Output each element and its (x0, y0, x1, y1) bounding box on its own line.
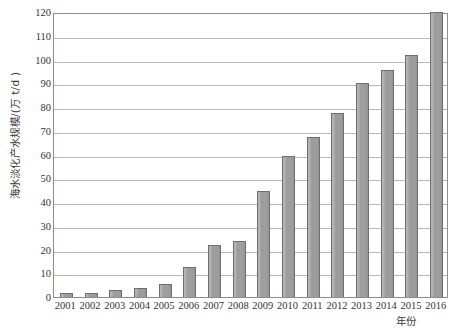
y-tick-label: 20 (22, 246, 51, 256)
bar (430, 12, 443, 297)
bar (60, 293, 73, 297)
y-tick-label: 10 (22, 269, 51, 279)
bar-chart: 海水淡化产水规模/(万 t/d ) 0102030405060708090100… (0, 0, 461, 332)
y-axis-tick-labels: 0102030405060708090100110120 (22, 13, 51, 298)
x-tick-label: 2016 (419, 299, 453, 312)
bar (134, 288, 147, 297)
bar (381, 70, 394, 297)
y-axis-title: 海水淡化产水规模/(万 t/d ) (7, 53, 22, 219)
bar (183, 267, 196, 297)
bar (331, 113, 344, 297)
bar (109, 290, 122, 297)
y-tick-label: 30 (22, 222, 51, 232)
y-tick-label: 100 (22, 56, 51, 66)
bar (307, 137, 320, 297)
bar (208, 245, 221, 297)
bar (282, 156, 295, 297)
y-tick-label: 0 (22, 293, 51, 303)
y-tick-label: 70 (22, 127, 51, 137)
y-tick-label: 60 (22, 151, 51, 161)
y-tick-label: 120 (22, 8, 51, 18)
x-axis-tick-labels: 2001200220032004200520062007200820092010… (53, 299, 448, 315)
y-tick-label: 110 (22, 32, 51, 42)
bar (405, 55, 418, 297)
x-axis-title: 年份 (396, 313, 416, 328)
y-tick-label: 50 (22, 174, 51, 184)
bar (159, 284, 172, 297)
y-tick-label: 90 (22, 79, 51, 89)
bar (233, 241, 246, 297)
bar-series (54, 14, 447, 297)
y-tick-label: 40 (22, 198, 51, 208)
bar (257, 191, 270, 297)
bar (85, 293, 98, 297)
bar (356, 83, 369, 297)
plot-area (53, 13, 448, 298)
y-tick-label: 80 (22, 103, 51, 113)
